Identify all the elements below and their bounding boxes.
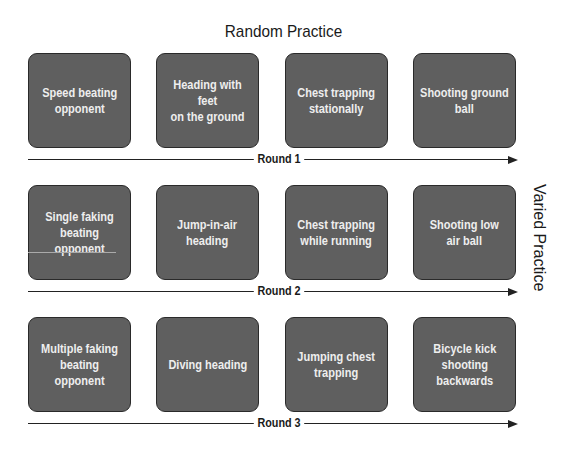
arrow-head-icon: [508, 420, 518, 428]
drill-box: Shooting ground ball: [413, 53, 516, 148]
side-label: Varied Practice: [528, 178, 548, 298]
drill-label: Jump-in-air heading: [178, 217, 238, 249]
drill-box: Jump-in-air heading: [156, 185, 259, 280]
round-label: Round 2: [254, 284, 304, 298]
drill-box: Chest trapping while running: [285, 185, 388, 280]
drill-label: Single faking beating opponent: [35, 209, 124, 257]
drill-box: Heading with feet on the ground: [156, 53, 259, 148]
drill-label: Multiple faking beating opponent: [35, 341, 124, 389]
diagram-title: Random Practice: [28, 22, 538, 42]
drill-label: Diving heading: [168, 357, 247, 373]
round-label: Round 3: [254, 416, 304, 430]
arrow-head-icon: [508, 288, 518, 296]
drill-box: Shooting low air ball: [413, 185, 516, 280]
round-2-arrow: Round 2: [28, 286, 518, 298]
drill-box: Diving heading: [156, 317, 259, 412]
drill-label: Shooting low air ball: [430, 217, 499, 249]
drill-label: Shooting ground ball: [420, 85, 509, 117]
drill-label: Bicycle kick shooting backwards: [433, 341, 496, 389]
round-3-arrow: Round 3: [28, 418, 518, 430]
round-label: Round 1: [254, 152, 304, 166]
drill-label: Jumping chest trapping: [298, 349, 376, 381]
drill-box: Jumping chest trapping: [285, 317, 388, 412]
drill-box: Chest trapping stationally: [285, 53, 388, 148]
drill-box: Single faking beating opponent: [28, 185, 131, 280]
drill-box: Bicycle kick shooting backwards: [413, 317, 516, 412]
drill-label: Speed beating opponent: [42, 85, 117, 117]
decorative-underline: [28, 252, 116, 253]
drill-box: Multiple faking beating opponent: [28, 317, 131, 412]
arrow-head-icon: [508, 156, 518, 164]
drill-box: Speed beating opponent: [28, 53, 131, 148]
drill-label: Heading with feet on the ground: [163, 77, 252, 125]
drill-label: Chest trapping stationally: [298, 85, 376, 117]
drill-label: Chest trapping while running: [298, 217, 376, 249]
round-1-arrow: Round 1: [28, 154, 518, 166]
